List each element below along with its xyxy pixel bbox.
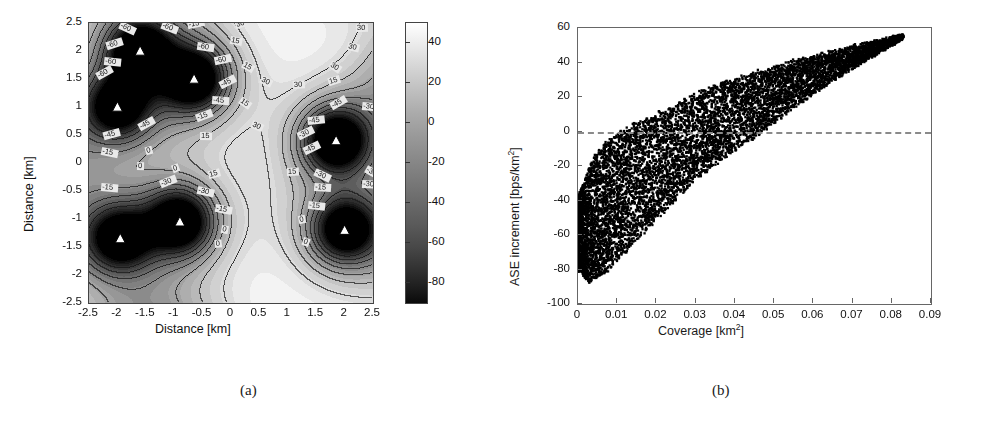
- x-tick-label-b: 0.01: [594, 308, 638, 320]
- y-tick-mark-b: [577, 27, 582, 28]
- scatter-plot-area: [577, 27, 932, 305]
- colorbar-gradient: [406, 23, 427, 303]
- x-tick-mark-b: [695, 298, 696, 303]
- colorbar-tick-mark: [405, 242, 410, 243]
- contour-plot-area: [88, 22, 374, 304]
- x-tick-mark-b: [773, 298, 774, 303]
- y-tick-label-a: 0: [48, 155, 82, 167]
- y-tick-label-b: -100: [530, 296, 570, 308]
- x-tick-label-b: 0.02: [633, 308, 677, 320]
- x-axis-title-b: Coverage [km2]: [658, 322, 744, 338]
- y-tick-label-b: 20: [530, 89, 570, 101]
- colorbar-tick-label: -60: [428, 235, 445, 247]
- y-tick-mark-b: [577, 62, 582, 63]
- y-axis-title-b: ASE increment [bps/km2]: [506, 147, 522, 286]
- y-tick-mark-b: [577, 131, 582, 132]
- scatter-points-canvas: [578, 28, 931, 304]
- colorbar-tick-mark: [405, 282, 410, 283]
- y-tick-mark-b: [577, 96, 582, 97]
- colorbar-tick-label: -20: [428, 155, 445, 167]
- x-tick-label-b: 0.05: [751, 308, 795, 320]
- colorbar-tick-mark: [405, 202, 410, 203]
- x-tick-mark-b: [616, 298, 617, 303]
- y-tick-label-b: -20: [530, 158, 570, 170]
- colorbar-tick-label: -80: [428, 275, 445, 287]
- subfigure-b: ASE increment [bps/km2] Coverage [km2] 6…: [470, 0, 981, 360]
- y-tick-mark-b: [577, 303, 582, 304]
- y-axis-title-b-tail: ]: [508, 147, 522, 150]
- colorbar-tick-label: 0: [428, 115, 434, 127]
- colorbar: [405, 22, 428, 304]
- colorbar-tick-label: -40: [428, 195, 445, 207]
- contour-map-canvas: [89, 23, 373, 303]
- y-tick-label-a: -0.5: [48, 183, 82, 195]
- colorbar-tick-mark: [405, 162, 410, 163]
- y-tick-label-a: -1: [48, 211, 82, 223]
- y-tick-label-a: 2: [48, 43, 82, 55]
- x-tick-label-b: 0.07: [830, 308, 874, 320]
- y-tick-label-a: 2.5: [48, 15, 82, 27]
- x-tick-label-b: 0.06: [790, 308, 834, 320]
- subfigure-caption-b: (b): [712, 382, 730, 399]
- y-tick-mark-b: [577, 200, 582, 201]
- colorbar-tick-label: 40: [428, 35, 441, 47]
- x-tick-mark-b: [577, 298, 578, 303]
- y-tick-label-b: 40: [530, 55, 570, 67]
- y-tick-label-a: 1.5: [48, 71, 82, 83]
- x-tick-label-b: 0.04: [712, 308, 756, 320]
- x-tick-mark-b: [734, 298, 735, 303]
- subfigure-caption-a: (a): [240, 382, 257, 399]
- x-tick-mark-b: [655, 298, 656, 303]
- x-tick-mark-b: [891, 298, 892, 303]
- x-tick-label-b: 0.09: [908, 308, 952, 320]
- y-tick-label-b: 60: [530, 20, 570, 32]
- x-axis-title-a: Distance [km]: [155, 322, 231, 336]
- y-tick-mark-b: [577, 165, 582, 166]
- y-tick-label-b: -40: [530, 193, 570, 205]
- x-tick-mark-b: [812, 298, 813, 303]
- y-axis-title-b-base: ASE increment [bps/km: [508, 155, 522, 286]
- x-tick-label-a: 2.5: [352, 306, 392, 318]
- colorbar-tick-label: 20: [428, 75, 441, 87]
- y-tick-label-b: 0: [530, 124, 570, 136]
- y-tick-label-b: -60: [530, 227, 570, 239]
- colorbar-tick-mark: [405, 122, 410, 123]
- y-tick-label-a: -1.5: [48, 239, 82, 251]
- x-tick-mark-b: [852, 298, 853, 303]
- x-tick-label-b: 0.03: [673, 308, 717, 320]
- x-axis-title-b-tail: ]: [741, 324, 744, 338]
- colorbar-tick-mark: [405, 42, 410, 43]
- y-tick-mark-b: [577, 269, 582, 270]
- y-tick-label-a: -2: [48, 267, 82, 279]
- x-tick-label-b: 0: [555, 308, 599, 320]
- y-tick-label-a: 1: [48, 99, 82, 111]
- x-axis-title-b-base: Coverage [km: [658, 324, 736, 338]
- y-tick-label-a: 0.5: [48, 127, 82, 139]
- y-tick-mark-b: [577, 234, 582, 235]
- colorbar-tick-mark: [405, 82, 410, 83]
- y-axis-title-b-sup: 2: [506, 151, 516, 156]
- subfigure-a: Distance [km] Distance [km] 2.521.510.50…: [0, 0, 470, 360]
- x-tick-label-b: 0.08: [869, 308, 913, 320]
- y-axis-title-a: Distance [km]: [22, 156, 36, 232]
- x-tick-mark-b: [930, 298, 931, 303]
- y-tick-label-b: -80: [530, 262, 570, 274]
- zero-reference-line: [578, 132, 931, 134]
